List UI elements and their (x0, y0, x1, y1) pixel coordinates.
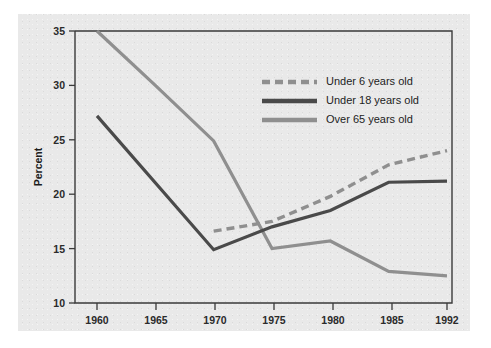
line-chart: 35 30 25 20 15 10 Percent 1960 1965 1970… (0, 0, 491, 348)
y-tick-label-15: 15 (53, 243, 65, 255)
x-tick-label-1960: 1960 (85, 314, 109, 326)
x-axis-labels: 1960 1965 1970 1975 1980 1985 1992 (85, 314, 459, 326)
y-tick-label-20: 20 (53, 188, 65, 200)
chart-screenshot: 35 30 25 20 15 10 Percent 1960 1965 1970… (0, 0, 491, 348)
series-line-over-65 (97, 31, 447, 276)
axis-frame (75, 31, 452, 303)
chart-legend: Under 6 years old Under 18 years old Ove… (262, 75, 419, 125)
series-line-under-18 (97, 116, 447, 250)
series-group (97, 31, 447, 276)
x-tick-label-1975: 1975 (262, 314, 286, 326)
x-tick-label-1970: 1970 (203, 314, 227, 326)
y-tick-label-30: 30 (53, 79, 65, 91)
x-axis-ticks (97, 303, 447, 310)
x-tick-label-1980: 1980 (321, 314, 345, 326)
legend-label-over-65: Over 65 years old (326, 113, 413, 125)
y-axis-ticks (69, 31, 75, 303)
series-line-under-6 (214, 151, 447, 232)
x-tick-label-1965: 1965 (144, 314, 168, 326)
legend-label-under-6: Under 6 years old (326, 75, 413, 87)
y-tick-label-35: 35 (53, 25, 65, 37)
y-axis-title: Percent (32, 147, 44, 186)
y-tick-label-10: 10 (53, 297, 65, 309)
y-axis-labels: 35 30 25 20 15 10 (53, 25, 65, 309)
y-tick-label-25: 25 (53, 134, 65, 146)
legend-label-under-18: Under 18 years old (326, 94, 419, 106)
x-tick-label-1992: 1992 (435, 314, 459, 326)
x-tick-label-1985: 1985 (380, 314, 404, 326)
